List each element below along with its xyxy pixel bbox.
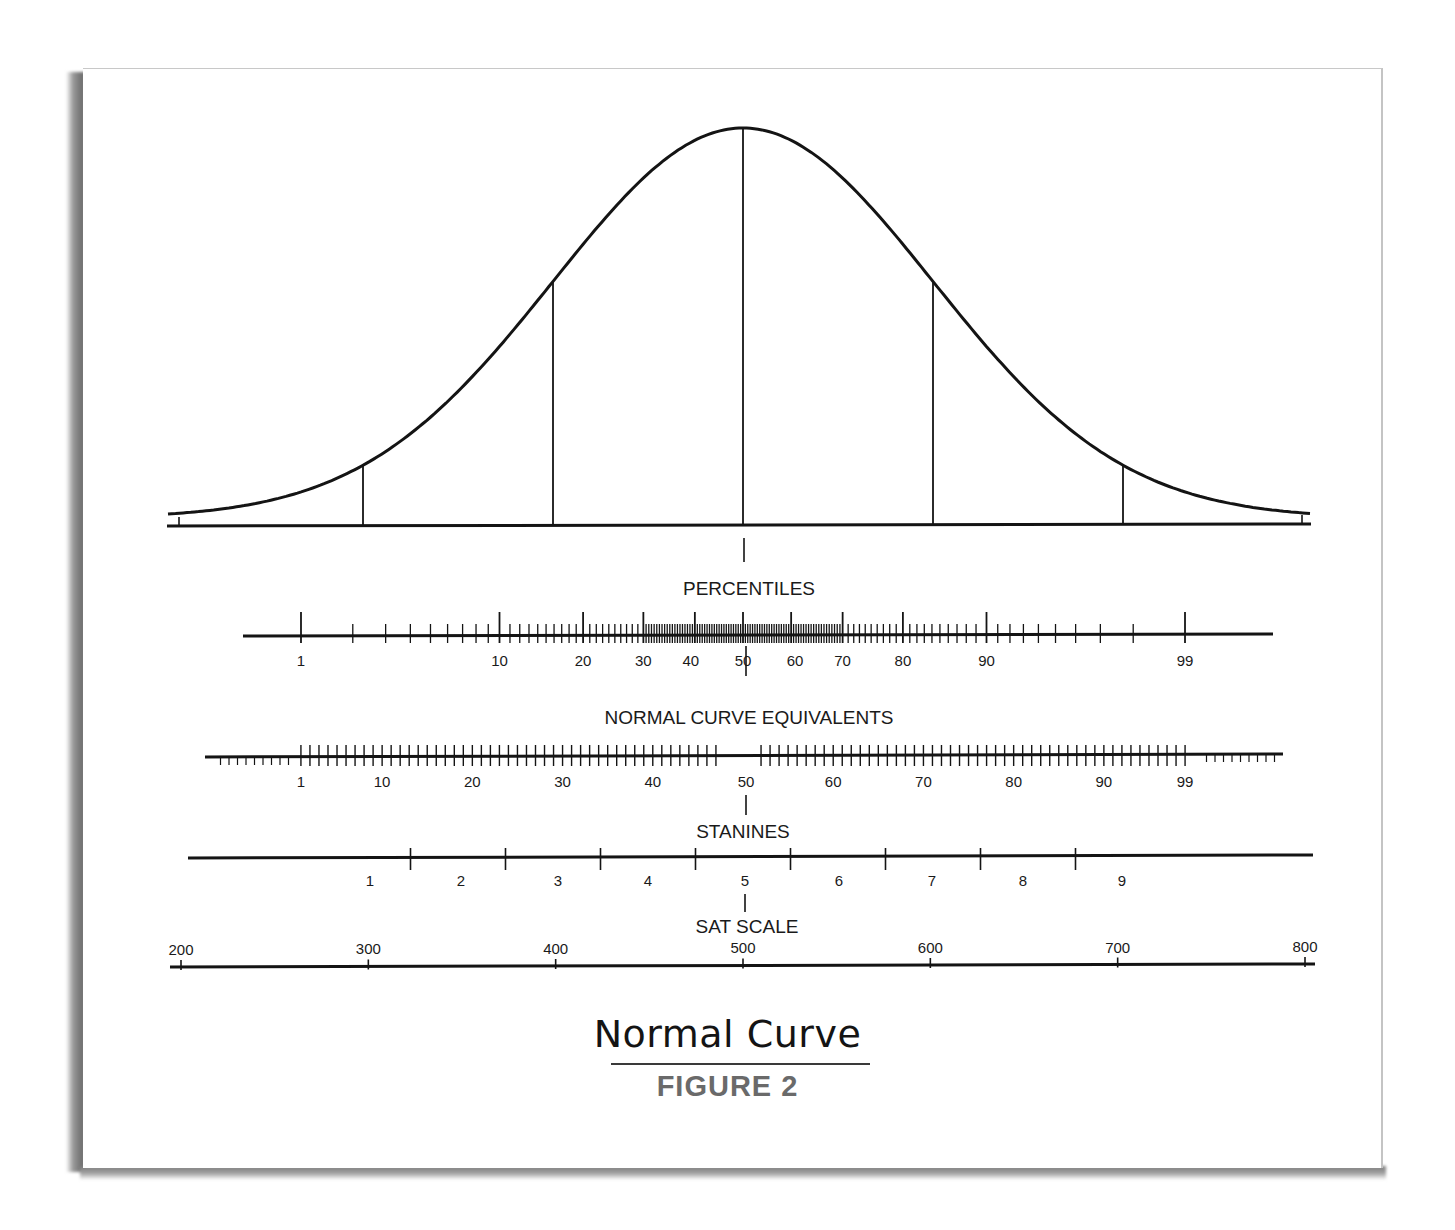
sat-scale-axis: SAT SCALE 200300400500600700800 <box>168 916 1317 970</box>
nce-tick-label: 30 <box>554 773 571 790</box>
sat-tick-label: 400 <box>543 940 568 957</box>
percentiles-label: PERCENTILES <box>683 578 815 599</box>
nce-tick-label: 80 <box>1005 773 1022 790</box>
percentile-tick-label: 30 <box>635 652 652 669</box>
percentile-tick-label: 50 <box>735 652 752 669</box>
stanine-label: 9 <box>1118 872 1126 889</box>
sat-tick-label: 700 <box>1105 939 1130 956</box>
nce-tick-label: 70 <box>915 773 932 790</box>
nce-tick-label: 40 <box>644 773 661 790</box>
percentile-tick-label: 70 <box>834 652 851 669</box>
bell-curve <box>167 128 1311 562</box>
nce-label: NORMAL CURVE EQUIVALENTS <box>605 707 894 728</box>
stanine-label: 7 <box>928 872 936 889</box>
percentile-tick-label: 90 <box>978 652 995 669</box>
title-underline <box>611 1063 870 1065</box>
nce-axis: NORMAL CURVE EQUIVALENTS 110203040506070… <box>205 707 1283 815</box>
percentile-tick-label: 1 <box>297 652 305 669</box>
stanines-axis: STANINES 123456789 <box>188 821 1313 912</box>
nce-tick-label: 10 <box>374 773 391 790</box>
percentile-tick-label: 80 <box>895 652 912 669</box>
nce-tick-label: 90 <box>1096 773 1113 790</box>
stanine-label: 1 <box>366 872 374 889</box>
percentiles-axis-line <box>243 634 1273 636</box>
stanines-label: STANINES <box>696 821 790 842</box>
stanines-axis-line <box>188 855 1313 858</box>
stanine-label: 8 <box>1019 872 1027 889</box>
sat-scale-label: SAT SCALE <box>696 916 799 937</box>
nce-tick-label: 99 <box>1177 773 1194 790</box>
percentile-tick-label: 60 <box>787 652 804 669</box>
figure-title: Normal Curve <box>0 1012 1455 1056</box>
curve-baseline <box>167 524 1311 526</box>
stanine-label: 6 <box>835 872 843 889</box>
percentile-tick-label: 99 <box>1177 652 1194 669</box>
figure-subtitle: FIGURE 2 <box>0 1070 1455 1103</box>
nce-tick-label: 20 <box>464 773 481 790</box>
percentile-tick-label: 20 <box>575 652 592 669</box>
percentile-tick-label: 10 <box>491 652 508 669</box>
nce-tick-label: 1 <box>297 773 305 790</box>
percentiles-axis: PERCENTILES 110203040506070809099 <box>243 578 1273 676</box>
nce-tick-label: 50 <box>738 773 755 790</box>
sat-tick-label: 600 <box>918 939 943 956</box>
stanine-label: 2 <box>457 872 465 889</box>
percentile-tick-label: 40 <box>683 652 700 669</box>
sat-tick-label: 300 <box>356 940 381 957</box>
stanine-label: 4 <box>644 872 652 889</box>
sat-tick-label: 800 <box>1292 938 1317 955</box>
stanine-label: 3 <box>554 872 562 889</box>
stanine-label: 5 <box>741 872 749 889</box>
nce-tick-label: 60 <box>825 773 842 790</box>
sat-tick-label: 200 <box>168 941 193 958</box>
sat-tick-label: 500 <box>730 939 755 956</box>
normal-curve-line <box>168 128 1310 514</box>
